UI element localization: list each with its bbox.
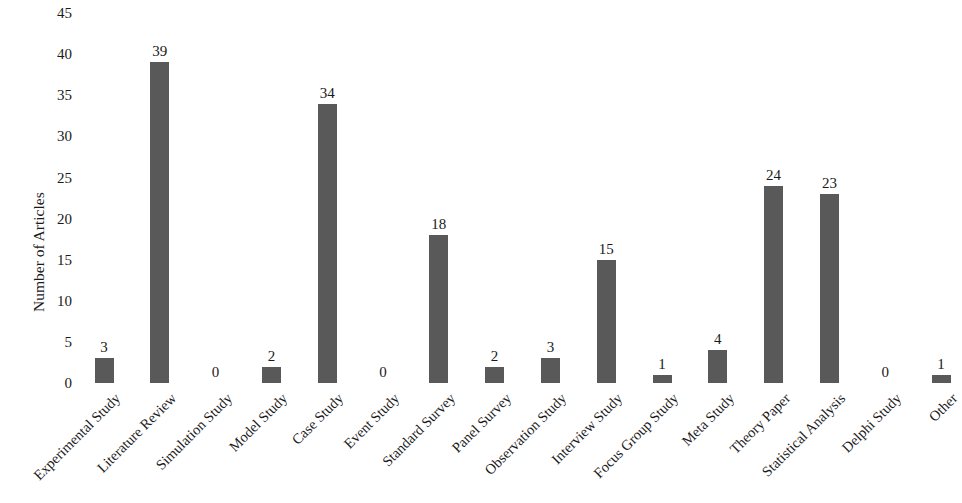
bar-group[interactable]: 34	[301, 6, 353, 384]
bar-value-label: 3	[78, 339, 130, 355]
bar-value-label: 3	[524, 339, 576, 355]
bar[interactable]	[653, 375, 672, 383]
bar-value-label: 18	[413, 216, 465, 232]
bar-value-label: 0	[357, 364, 409, 380]
bar-group[interactable]: 2	[469, 6, 521, 384]
y-axis-tick-label: 5	[38, 334, 72, 350]
bar-value-label: 4	[692, 331, 744, 347]
y-axis-tick-label: 40	[38, 46, 72, 62]
bar[interactable]	[820, 194, 839, 383]
bar-value-label: 2	[469, 348, 521, 364]
bar[interactable]	[764, 186, 783, 383]
plot-area: 3390234018231514242301	[78, 6, 929, 384]
bar-group[interactable]: 18	[413, 6, 465, 384]
bar-group[interactable]: 24	[748, 6, 800, 384]
y-axis-tick-label: 30	[38, 128, 72, 144]
bar-group[interactable]: 0	[190, 6, 242, 384]
bar-group[interactable]: 39	[134, 6, 186, 384]
bar[interactable]	[932, 375, 951, 383]
bar-group[interactable]: 4	[692, 6, 744, 384]
y-axis-tick-label: 45	[38, 5, 72, 21]
bar[interactable]	[429, 235, 448, 383]
bar-value-label: 23	[803, 175, 855, 191]
bar-value-label: 2	[245, 348, 297, 364]
bar-group[interactable]: 15	[580, 6, 632, 384]
bar[interactable]	[597, 260, 616, 383]
bar-group[interactable]: 0	[357, 6, 409, 384]
x-axis-tick-label: Experimental Study	[0, 390, 124, 503]
bar-group[interactable]: 3	[78, 6, 130, 384]
bar-group[interactable]: 1	[915, 6, 962, 384]
bar-group[interactable]: 0	[859, 6, 911, 384]
y-axis-tick-label: 25	[38, 170, 72, 186]
bar-group[interactable]: 1	[636, 6, 688, 384]
y-axis-tick-label: 35	[38, 87, 72, 103]
bar-value-label: 15	[580, 241, 632, 257]
bar-value-label: 0	[190, 364, 242, 380]
bar[interactable]	[541, 358, 560, 383]
bar-group[interactable]: 23	[803, 6, 855, 384]
bar[interactable]	[95, 358, 114, 383]
bar-value-label: 24	[748, 167, 800, 183]
bar-group[interactable]: 2	[245, 6, 297, 384]
bar-value-label: 1	[915, 356, 962, 372]
bar-group[interactable]: 3	[524, 6, 576, 384]
bar-value-label: 1	[636, 356, 688, 372]
y-axis-tick-label: 10	[38, 293, 72, 309]
y-axis-tick-label: 0	[38, 375, 72, 391]
x-axis-tick-labels: Experimental StudyLiterature ReviewSimul…	[78, 384, 929, 503]
bar[interactable]	[262, 367, 281, 383]
y-axis-tick-label: 20	[38, 211, 72, 227]
bar-value-label: 0	[859, 364, 911, 380]
bar[interactable]	[318, 104, 337, 383]
bar[interactable]	[150, 62, 169, 383]
bar-value-label: 34	[301, 85, 353, 101]
y-axis-tick-label: 15	[38, 252, 72, 268]
bar-value-label: 39	[134, 43, 186, 59]
bar[interactable]	[485, 367, 504, 383]
bar[interactable]	[708, 350, 727, 383]
